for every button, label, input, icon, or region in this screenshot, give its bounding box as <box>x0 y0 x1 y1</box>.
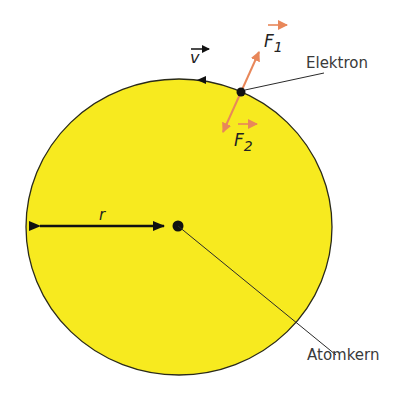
electron-dot <box>237 88 246 97</box>
force1-arrow <box>241 52 259 92</box>
electron-leader-line <box>245 73 324 90</box>
velocity-label: v <box>190 48 200 67</box>
electron-label: Elektron <box>306 54 368 72</box>
force1-label: F1 <box>264 31 283 55</box>
atom-diagram: r Atomkern Elektron v F1 F2 <box>0 0 416 395</box>
radius-label: r <box>99 206 106 224</box>
nucleus-label: Atomkern <box>307 346 379 364</box>
